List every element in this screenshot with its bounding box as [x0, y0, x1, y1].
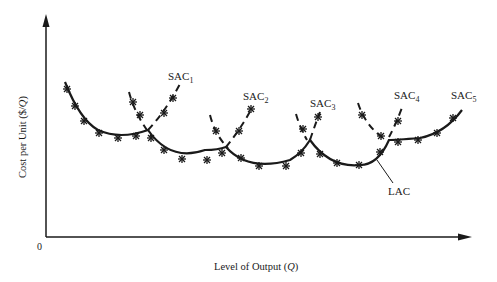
sac1-label: SAC1: [168, 70, 193, 85]
lac-label: LAC: [388, 185, 410, 197]
sac1-right-arm: [148, 84, 180, 130]
x-axis-label: Level of Output (Q): [214, 261, 299, 273]
axes: [43, 14, 473, 241]
sac2-label: SAC2: [243, 90, 268, 105]
sac3-label: SAC3: [310, 97, 335, 112]
long-run-average-cost-chart: SAC1 SAC2 SAC3 SAC4 SAC5 LAC 0 Level of …: [0, 0, 497, 282]
origin-label: 0: [37, 241, 42, 252]
sac4-label: SAC4: [394, 89, 419, 104]
sac5-label: SAC5: [451, 89, 476, 104]
y-axis-arrow-icon: [43, 14, 50, 27]
lac-pointer-line: [377, 160, 393, 183]
y-axis-label: Cost per Unit ($/Q): [17, 96, 29, 178]
x-axis-arrow-icon: [458, 234, 472, 241]
sac4-left-arm: [358, 103, 383, 138]
